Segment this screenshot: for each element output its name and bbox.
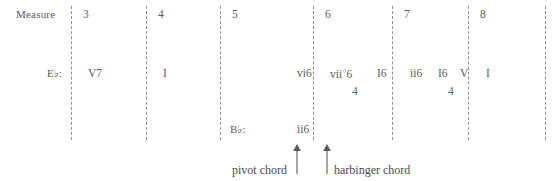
chord-symbol: ii6 [410, 67, 422, 79]
arrow-up-icon-0 [291, 144, 303, 174]
measure-number-3: 3 [83, 9, 89, 21]
barline-4 [392, 6, 393, 140]
chord-lower-0: ii6 [297, 124, 309, 136]
barline-0 [71, 6, 72, 140]
chord-upper-1: I [163, 68, 167, 80]
key-label-primary-colon: : [59, 67, 62, 79]
chord-symbol: V7 [88, 67, 102, 79]
measure-number-4: 4 [158, 9, 164, 21]
harmonic-analysis-diagram: Measure 345678 E♭: B♭: V7Ivi6vii○64I6ii6… [0, 0, 558, 181]
figured-bass-lower: 4 [448, 86, 454, 98]
key-label-secondary-text: B♭ [230, 123, 243, 135]
measure-number-5: 5 [232, 9, 238, 21]
chord-symbol: vi6 [297, 67, 312, 79]
key-label-primary: E♭: [47, 68, 62, 79]
chord-upper-5: ii6 [410, 68, 422, 80]
chord-symbol: V [460, 67, 468, 79]
chord-upper-0: V7 [88, 68, 102, 80]
key-label-primary-text: E♭ [47, 67, 59, 79]
arrow-up-icon-1 [321, 144, 333, 174]
key-label-secondary: B♭: [230, 124, 246, 135]
figured-bass-upper: 6 [346, 68, 352, 80]
chord-upper-2: vi6 [297, 68, 312, 80]
barline-3 [313, 6, 314, 140]
chord-upper-3: vii○6 [330, 68, 352, 80]
chord-symbol: I [163, 67, 167, 79]
chord-upper-6: I6 [438, 68, 448, 80]
chord-symbol: vii [330, 68, 342, 80]
barline-1 [146, 6, 147, 140]
annotation-label-1: harbinger chord [334, 164, 410, 176]
chord-upper-8: I [486, 68, 490, 80]
barline-2 [220, 6, 221, 140]
chord-symbol: I [486, 67, 490, 79]
chord-symbol: I6 [377, 67, 387, 79]
chord-upper-7: V [460, 68, 468, 80]
figured-bass-lower: 4 [352, 86, 358, 98]
annotation-label-0: pivot chord [232, 164, 287, 176]
measure-number-8: 8 [480, 9, 486, 21]
figured-bass-upper: 6 [442, 67, 448, 79]
measure-number-7: 7 [404, 9, 410, 21]
key-label-secondary-colon: : [243, 123, 246, 135]
measure-row-label: Measure [16, 9, 55, 20]
barline-6 [545, 6, 546, 140]
chord-upper-4: I6 [377, 68, 387, 80]
measure-number-6: 6 [325, 9, 331, 21]
